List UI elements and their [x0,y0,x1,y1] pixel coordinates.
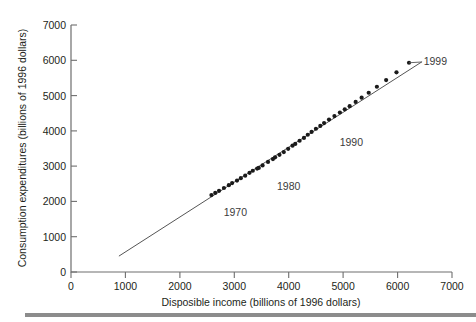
data-point [367,91,371,95]
data-point [298,139,302,143]
axes-group: 0 1000 2000 3000 4000 5000 6000 7000 0 1… [16,19,464,308]
data-point [243,174,247,178]
data-point [235,179,239,183]
y-tick-labels: 0 1000 2000 3000 4000 5000 6000 7000 [43,19,67,278]
y-tick-label: 1000 [43,231,67,243]
x-tick-marks [71,272,452,278]
x-tick-label: 5000 [331,280,355,292]
y-tick-label: 3000 [43,160,67,172]
data-point [257,166,261,170]
data-point [222,186,226,190]
x-tick-labels: 0 1000 2000 3000 4000 5000 6000 7000 [68,280,464,292]
scatter-plot-figure: 0 1000 2000 3000 4000 5000 6000 7000 0 1… [0,0,476,322]
data-point [360,96,364,100]
data-point [251,169,255,173]
data-point [266,160,270,164]
data-point [332,114,336,118]
data-point [286,147,290,151]
x-tick-label: 3000 [223,280,247,292]
x-tick-label: 1000 [114,280,138,292]
x-tick-label: 7000 [440,280,464,292]
y-tick-marks [71,25,77,272]
year-annotation: 1999 [424,55,448,67]
x-tick-label: 6000 [386,280,410,292]
footer-rule [25,313,476,317]
data-point [306,133,310,137]
annotations-group: 1970198019901999 [224,55,448,218]
x-axis-title: Disposible income (billions of 1996 doll… [161,296,360,308]
y-tick-label: 7000 [43,19,67,31]
year-annotation: 1990 [340,136,364,148]
data-point [282,150,286,154]
data-point [309,130,313,134]
data-point [273,155,277,159]
data-point [375,85,379,89]
y-axis-title: Consumption expenditures (billions of 19… [16,29,28,268]
data-point [209,193,213,197]
x-tick-label: 2000 [168,280,192,292]
data-point [318,124,322,128]
data-point [277,153,281,157]
year-annotation: 1980 [277,180,301,192]
year-annotation: 1970 [224,206,248,218]
data-point [354,100,358,104]
data-points-group [209,61,411,198]
data-point [322,121,326,125]
y-tick-label: 0 [60,266,66,278]
y-tick-label: 4000 [43,125,67,137]
data-point [348,104,352,108]
data-point [302,136,306,140]
x-tick-label: 4000 [277,280,301,292]
regression-line [119,62,422,256]
chart-canvas: 0 1000 2000 3000 4000 5000 6000 7000 0 1… [0,0,476,322]
data-point [394,70,398,74]
y-tick-label: 5000 [43,90,67,102]
data-point [230,181,234,185]
data-point [293,142,297,146]
data-point [343,107,347,111]
y-tick-label: 6000 [43,54,67,66]
data-point [217,189,221,193]
regression-line-group [119,62,422,256]
data-point [260,163,264,167]
y-tick-label: 2000 [43,195,67,207]
data-point [384,78,388,82]
axis-lines [71,25,452,272]
data-point [314,127,318,131]
data-point [338,110,342,114]
data-point [213,191,217,195]
data-point [327,117,331,121]
data-point [239,176,243,180]
x-tick-label: 0 [68,280,74,292]
